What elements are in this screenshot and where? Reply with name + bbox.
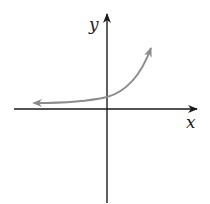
x-axis-label: x — [186, 112, 196, 132]
graph-canvas: y x — [0, 0, 210, 204]
exponential-curve — [36, 48, 151, 103]
y-axis-label: y — [88, 14, 99, 34]
